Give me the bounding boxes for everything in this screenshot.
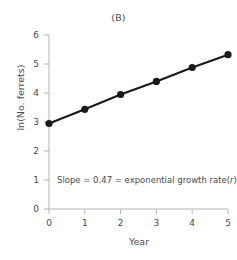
x-axis-ticks	[49, 209, 228, 214]
y-tick-label-4: 4	[25, 88, 39, 98]
slope-annotation: Slope = 0.47 = exponential growth rate(r…	[57, 175, 237, 185]
data-point	[189, 64, 196, 71]
data-point	[224, 51, 231, 58]
x-tick-label-5: 5	[221, 218, 235, 228]
x-tick-label-2: 2	[114, 218, 128, 228]
y-axis-title: ln(No. ferrets)	[15, 38, 26, 158]
x-axis-title: Year	[49, 236, 229, 247]
x-tick-label-3: 3	[149, 218, 163, 228]
slope-annotation-prefix: Slope = 0.47 = exponential growth rate(	[57, 175, 230, 185]
chart-figure: (B)	[0, 0, 237, 260]
data-point	[153, 78, 160, 85]
y-tick-label-1: 1	[25, 175, 39, 185]
y-tick-label-3: 3	[25, 117, 39, 127]
data-point	[81, 106, 88, 113]
y-tick-label-0: 0	[25, 204, 39, 214]
x-tick-label-1: 1	[78, 218, 92, 228]
y-tick-label-6: 6	[25, 30, 39, 40]
x-tick-label-4: 4	[185, 218, 199, 228]
data-line	[49, 55, 228, 124]
data-point	[117, 91, 124, 98]
x-tick-label-0: 0	[42, 218, 56, 228]
slope-annotation-suffix: )	[234, 175, 237, 185]
y-tick-label-5: 5	[25, 59, 39, 69]
y-tick-label-2: 2	[25, 146, 39, 156]
data-point	[45, 120, 52, 127]
